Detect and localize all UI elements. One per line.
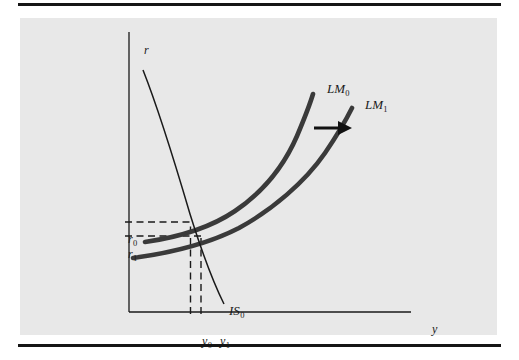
figure-root: r y r0 r1 y0 y1 LM0 LM1 IS0 bbox=[0, 0, 519, 360]
curve-label-lm1: LM1 bbox=[365, 98, 387, 111]
y-tick-r0-base: r bbox=[128, 232, 133, 246]
curve-lm1-base: LM bbox=[365, 97, 383, 112]
axes-group bbox=[129, 32, 411, 312]
y-tick-r1-base: r bbox=[128, 247, 133, 261]
curve-label-lm0: LM0 bbox=[327, 82, 349, 95]
curve-lm1-subscript: 1 bbox=[383, 104, 387, 114]
plot-panel: r y r0 r1 y0 y1 LM0 LM1 IS0 bbox=[20, 18, 497, 335]
curve-lm0-base: LM bbox=[327, 81, 345, 96]
curve-label-is0: IS0 bbox=[229, 304, 244, 317]
y-tick-label-r0: r0 bbox=[128, 233, 137, 245]
curve-lm0-subscript: 0 bbox=[345, 88, 349, 98]
top-horizontal-rule bbox=[18, 3, 501, 6]
is-lm-chart-svg bbox=[20, 18, 497, 335]
curve-is0-subscript: 0 bbox=[240, 310, 244, 320]
bottom-horizontal-rule bbox=[18, 344, 501, 347]
is-curve-group bbox=[143, 70, 224, 304]
y-tick-label-r1: r1 bbox=[128, 248, 137, 260]
y-tick-r0-subscript: 0 bbox=[133, 238, 137, 248]
y-axis-label: r bbox=[144, 44, 149, 56]
curve-is0 bbox=[143, 70, 224, 304]
curve-is0-base: IS bbox=[229, 303, 240, 318]
lm-curves-group bbox=[133, 94, 352, 258]
curve-lm0 bbox=[145, 94, 313, 242]
y-tick-r1-subscript: 1 bbox=[133, 253, 137, 263]
x-axis-label: y bbox=[432, 323, 437, 335]
